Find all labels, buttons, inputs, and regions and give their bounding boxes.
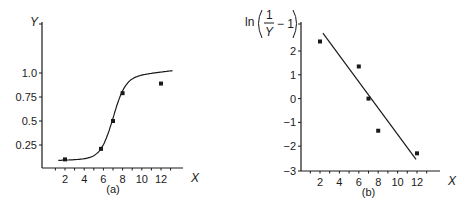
data-point <box>376 129 380 133</box>
y-axis-label: ln1Y− 1 <box>245 8 297 39</box>
y-tick-label: 0.5 <box>22 115 37 127</box>
fit-curve <box>58 71 172 161</box>
svg-text:1: 1 <box>266 8 273 22</box>
data-point <box>367 97 371 101</box>
svg-text:− 1: − 1 <box>277 17 294 31</box>
svg-text:Y: Y <box>265 25 274 39</box>
data-point <box>111 119 115 123</box>
data-point <box>121 91 125 95</box>
chart-panel-a: 246810120.250.50.751.0X(a)Y <box>16 15 200 195</box>
x-tick-label: 4 <box>336 176 342 188</box>
fit-line <box>323 33 416 159</box>
x-tick-label: 12 <box>411 176 423 188</box>
y-tick-label: 0.25 <box>16 139 37 151</box>
data-point <box>318 39 322 43</box>
data-point <box>415 151 419 155</box>
y-axis-label: Y <box>30 15 39 29</box>
data-point <box>357 64 361 68</box>
panel-label: (b) <box>362 186 375 198</box>
y-tick-label: 0 <box>290 93 296 105</box>
x-tick-label: 2 <box>317 176 323 188</box>
x-axis-label: X <box>190 171 200 185</box>
figure: 246810120.250.50.751.0X(a)Y24681012210−1… <box>0 0 457 204</box>
y-tick-label: −2 <box>283 140 296 152</box>
x-tick-label: 8 <box>375 176 381 188</box>
y-tick-label: 0.75 <box>16 91 37 103</box>
panel-label: (a) <box>106 183 119 195</box>
y-tick-label: −3 <box>283 165 296 177</box>
y-tick-label: 2 <box>290 45 296 57</box>
x-tick-label: 12 <box>155 173 167 185</box>
chart-panel-b: 24681012210−1−2−3X(b)ln1Y− 1 <box>245 8 457 198</box>
y-tick-label: 1.0 <box>22 67 37 79</box>
data-point <box>63 157 67 161</box>
y-tick-label: −1 <box>283 116 296 128</box>
data-point <box>99 147 103 151</box>
svg-text:ln: ln <box>245 15 254 29</box>
x-tick-label: 10 <box>391 176 403 188</box>
y-tick-label: 1 <box>290 69 296 81</box>
data-point <box>159 82 163 86</box>
x-tick-label: 2 <box>62 173 68 185</box>
x-tick-label: 10 <box>136 173 148 185</box>
x-tick-label: 4 <box>81 173 87 185</box>
x-axis-label: X <box>447 174 457 188</box>
x-tick-label: 8 <box>120 173 126 185</box>
